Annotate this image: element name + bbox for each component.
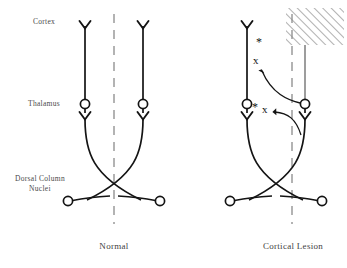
thalamus-terminal-right-lesion [300, 112, 311, 120]
thalamus-soma-left-lesion [242, 99, 251, 108]
row-label-dorsal-column-nuclei: Dorsal Column Nuclei [4, 174, 76, 194]
asterisk-upper: * [256, 36, 262, 48]
x-mark-upper: x [253, 54, 259, 66]
dcn-axon-left-normal [73, 196, 110, 200]
dcn-axon-right-normal [118, 196, 155, 200]
lemniscus-left-normal [85, 119, 141, 200]
dcn-soma-left-normal [63, 196, 72, 205]
pathway-diagram [0, 0, 347, 268]
panel-caption-cortical-lesion: Cortical Lesion [247, 241, 339, 251]
thalamus-soma-right-lesion [300, 99, 309, 108]
figure-canvas: Cortex Thalamus Dorsal Column Nuclei Nor… [0, 0, 347, 268]
thalamus-soma-left-normal [80, 99, 89, 108]
x-mark-lower: x [262, 103, 268, 115]
asterisk-lower: * [252, 101, 258, 113]
dcn-soma-right-lesion [317, 196, 326, 205]
arrow-upper-lesion [258, 69, 300, 103]
dcn-axon-right-lesion [280, 196, 317, 200]
row-label-thalamus: Thalamus [12, 99, 76, 109]
panel-normal [63, 14, 164, 224]
row-label-cortex: Cortex [14, 17, 74, 27]
panel-caption-normal: Normal [79, 241, 149, 251]
lemniscus-right-normal [87, 119, 143, 200]
panel-cortical-lesion [225, 8, 344, 224]
cortical-lesion-box [286, 8, 344, 45]
dcn-soma-right-normal [155, 196, 164, 205]
lemniscus-left-lesion [247, 119, 303, 200]
dcn-soma-left-lesion [225, 196, 234, 205]
thalamus-soma-right-normal [138, 99, 147, 108]
arrow-lower-lesion [272, 108, 301, 135]
lemniscus-right-lesion [249, 119, 305, 200]
dcn-axon-left-lesion [235, 196, 272, 200]
